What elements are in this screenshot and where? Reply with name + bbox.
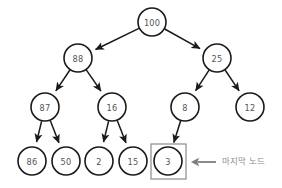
node-label: 100: [144, 18, 160, 28]
tree-node[interactable]: 86: [18, 147, 46, 175]
node-label: 16: [107, 103, 118, 113]
last-node-annotation-label: 마지막 노드: [222, 157, 265, 166]
tree-node[interactable]: 50: [52, 147, 80, 175]
tree-node[interactable]: 25: [203, 44, 231, 72]
node-label: 25: [212, 54, 223, 64]
tree-node[interactable]: 100: [138, 8, 166, 36]
tree-edge: [37, 121, 42, 142]
tree-node[interactable]: 15: [119, 147, 147, 175]
node-label: 88: [73, 54, 84, 64]
tree-edge: [174, 121, 181, 143]
tree-edge: [56, 70, 70, 91]
tree-node[interactable]: 16: [98, 93, 126, 121]
tree-node[interactable]: 87: [31, 93, 59, 121]
node-label: 15: [128, 157, 139, 167]
node-label: 12: [245, 103, 256, 113]
tree-node[interactable]: 88: [64, 44, 92, 72]
annotation-arrow-layer: [191, 158, 216, 166]
tree-edge: [225, 70, 239, 91]
annotation-arrow-head-icon: [191, 158, 199, 166]
node-label: 86: [27, 157, 38, 167]
tree-node[interactable]: 8: [171, 93, 199, 121]
tree-edge: [104, 121, 109, 142]
node-label: 87: [40, 103, 51, 113]
node-label: 50: [61, 157, 72, 167]
node-label: 2: [96, 157, 101, 167]
tree-node[interactable]: 3: [154, 147, 182, 175]
tree-edge: [50, 121, 59, 143]
node-label: 8: [182, 103, 187, 113]
tree-node[interactable]: 12: [236, 93, 264, 121]
tree-edge: [86, 70, 101, 91]
tree-edge: [196, 70, 209, 91]
tree-edge: [165, 29, 200, 49]
tree-edge: [96, 28, 139, 49]
tree-edge: [117, 121, 126, 143]
node-layer: 1008825871681286502153: [18, 8, 264, 175]
tree-node[interactable]: 2: [85, 147, 113, 175]
edge-layer: [37, 28, 240, 142]
node-label: 3: [165, 157, 170, 167]
binary-heap-tree-diagram: 1008825871681286502153 마지막 노드: [0, 0, 282, 188]
